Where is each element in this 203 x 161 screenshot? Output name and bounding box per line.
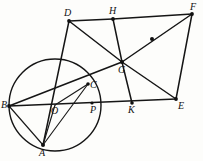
segment-O-C <box>55 84 88 105</box>
vertex-dot-D <box>67 19 71 23</box>
midpoint-dot-GF <box>150 37 154 41</box>
point-label-K: K <box>128 105 135 115</box>
figure-canvas <box>0 0 203 161</box>
segment-H-F <box>113 14 192 19</box>
segment-G-F <box>122 14 192 62</box>
point-label-E: E <box>178 101 184 111</box>
geometry-figure: ABCDEFGHKOP <box>0 0 203 161</box>
point-label-H: H <box>109 6 116 16</box>
point-label-B: B <box>1 100 7 110</box>
point-label-F: F <box>190 2 196 12</box>
vertex-dot-H <box>111 17 115 21</box>
point-label-D: D <box>64 8 71 18</box>
segment-D-H <box>69 19 113 21</box>
point-label-C: C <box>90 80 97 90</box>
segments-layer <box>9 14 192 145</box>
point-label-O: O <box>51 106 58 116</box>
vertex-dot-B <box>7 104 11 108</box>
point-label-G: G <box>118 65 125 75</box>
segment-F-E <box>176 14 192 99</box>
point-label-P: P <box>90 105 96 115</box>
vertex-dot-F <box>190 12 194 16</box>
segment-D-A <box>43 21 69 145</box>
point-label-A: A <box>39 148 45 158</box>
